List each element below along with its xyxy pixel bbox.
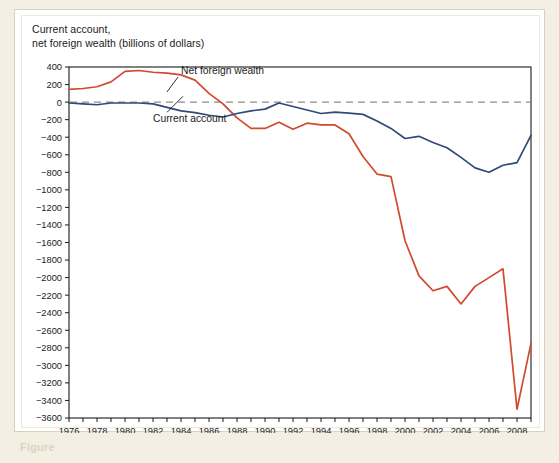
- y-tick-label: −1600: [36, 238, 62, 248]
- x-tick-label: 2004: [451, 426, 472, 433]
- y-tick-label: −1200: [36, 203, 62, 213]
- y-tick-label: −2000: [36, 273, 62, 283]
- x-tick-label: 1988: [227, 426, 248, 433]
- y-tick-label: −200: [41, 115, 62, 125]
- y-tick-label: −800: [41, 168, 62, 178]
- y-tick-label: −3600: [36, 413, 62, 423]
- y-tick-label: −1800: [36, 255, 62, 265]
- annotation-leader-net-foreign-wealth: [167, 77, 178, 92]
- annotation-current-account: Current account: [153, 113, 226, 124]
- y-tick-label: −400: [41, 133, 62, 143]
- x-tick-label: 2006: [479, 426, 500, 433]
- x-tick-label: 1994: [311, 426, 332, 433]
- x-tick-label: 1992: [283, 426, 304, 433]
- figure-caption: Figure: [20, 441, 55, 453]
- plot-frame: [69, 67, 531, 418]
- x-tick-label: 1982: [143, 426, 164, 433]
- y-tick-label: −3400: [36, 396, 62, 406]
- x-tick-label: 1986: [199, 426, 220, 433]
- y-tick-label: −3200: [36, 378, 62, 388]
- y-tick-label: −1000: [36, 185, 62, 195]
- x-tick-label: 2002: [423, 426, 444, 433]
- y-tick-label: 0: [57, 98, 62, 108]
- figure-page: Current account, net foreign wealth (bil…: [0, 0, 559, 463]
- x-tick-label: 1990: [255, 426, 276, 433]
- annotation-net-foreign-wealth: Net foreign wealth: [181, 65, 264, 76]
- y-axis-tick-labels: 4002000−200−400−600−800−1000−1200−1400−1…: [36, 62, 62, 423]
- y-tick-label: −2200: [36, 291, 62, 301]
- x-tick-label: 1978: [87, 426, 108, 433]
- x-tick-label: 2008: [507, 426, 528, 433]
- data-series-group: [69, 71, 531, 410]
- x-tick-label: 1996: [339, 426, 360, 433]
- figure-card: Current account, net foreign wealth (bil…: [14, 9, 545, 432]
- y-tick-label: −1400: [36, 220, 62, 230]
- y-tick-label: −3000: [36, 361, 62, 371]
- y-tick-label: −2800: [36, 343, 62, 353]
- series-line-current-account: [69, 103, 531, 172]
- x-tick-label: 1976: [59, 426, 80, 433]
- x-axis-tick-labels: 1976197819801982198419861988199019921994…: [59, 426, 528, 433]
- chart-plot-area: 4002000−200−400−600−800−1000−1200−1400−1…: [15, 10, 546, 433]
- x-tick-label: 1998: [367, 426, 388, 433]
- line-chart: 4002000−200−400−600−800−1000−1200−1400−1…: [15, 10, 546, 433]
- y-tick-label: 400: [46, 62, 62, 72]
- x-tick-label: 1980: [115, 426, 136, 433]
- x-tick-label: 2000: [395, 426, 416, 433]
- y-axis-ticks: [65, 67, 69, 418]
- x-axis-ticks: [69, 418, 531, 422]
- y-tick-label: −600: [41, 150, 62, 160]
- plot-border: [69, 67, 531, 418]
- series-line-net-foreign-wealth: [69, 71, 531, 410]
- y-tick-label: −2400: [36, 308, 62, 318]
- y-tick-label: 200: [46, 80, 62, 90]
- y-tick-label: −2600: [36, 326, 62, 336]
- x-tick-label: 1984: [171, 426, 192, 433]
